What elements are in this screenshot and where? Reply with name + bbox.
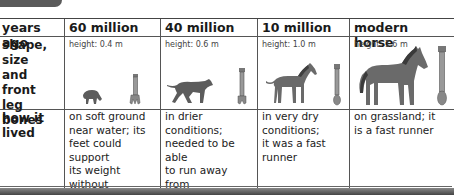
lived-cell-60-million: on soft ground near water; its feet coul… xyxy=(64,110,160,190)
page-bottom-band xyxy=(0,188,454,195)
how-it-lived-label: how it lived xyxy=(0,110,64,190)
shape-label-line: shape, size xyxy=(2,38,60,68)
shape-row-label: shape, size and front leg bones xyxy=(0,37,64,109)
lived-cell-10-million: in very dry conditions; it was a fast ru… xyxy=(257,110,349,190)
header-60-million: 60 million xyxy=(64,19,160,36)
text-line: needed to be able xyxy=(165,137,253,164)
three-toed-long-leg-bone-icon xyxy=(332,63,342,107)
height-label: height: 0.6 m xyxy=(165,40,253,50)
shape-cell-40-million: height: 0.6 m xyxy=(160,37,257,109)
text-line: conditions; xyxy=(262,124,345,138)
header-label: years ago xyxy=(0,19,64,36)
header-40-million: 40 million xyxy=(160,19,257,36)
text-line: on soft ground xyxy=(69,110,156,124)
three-toed-leg-bone-icon xyxy=(236,67,248,105)
shape-row: shape, size and front leg bones height: … xyxy=(0,37,454,110)
lived-cell-modern-horse: on grassland; it is a fast runner xyxy=(349,110,454,190)
horse-evolution-table: years ago 60 million 40 million 10 milli… xyxy=(0,18,454,190)
text-line: near water; its xyxy=(69,124,156,138)
small-horse-icon xyxy=(266,57,318,105)
text-line: on grassland; it xyxy=(354,110,450,124)
lived-label-line: how it xyxy=(2,111,60,126)
shape-cell-modern-horse: height: 1.6 m xyxy=(349,37,454,109)
shape-cell-60-million: height: 0.4 m xyxy=(64,37,160,109)
header-10-million: 10 million xyxy=(257,19,349,36)
height-label: height: 0.4 m xyxy=(69,40,156,50)
single-hoof-leg-bone-icon xyxy=(436,45,448,107)
table-bottom-border xyxy=(0,186,452,187)
text-line: in drier conditions; xyxy=(165,110,253,137)
text-line: is a fast runner xyxy=(354,124,450,138)
text-line: in very dry xyxy=(262,110,345,124)
modern-horse-icon xyxy=(358,41,430,107)
how-it-lived-row: how it lived on soft ground near water; … xyxy=(0,110,454,190)
four-toed-leg-bone-icon xyxy=(129,73,141,105)
header-row: years ago 60 million 40 million 10 milli… xyxy=(0,19,454,37)
height-label: height: 1.0 m xyxy=(262,40,345,50)
header-modern-horse: modern horse xyxy=(349,19,454,36)
shape-label-line: and front xyxy=(2,68,60,98)
text-line: it was a fast xyxy=(262,137,345,151)
section-tab xyxy=(0,0,62,7)
text-line: runner xyxy=(262,151,345,165)
text-line: feet could support xyxy=(69,137,156,164)
lived-cell-40-million: in drier conditions; needed to be able t… xyxy=(160,110,257,190)
small-grazing-animal-icon xyxy=(81,87,103,105)
shape-cell-10-million: height: 1.0 m xyxy=(257,37,349,109)
lived-label-line: lived xyxy=(2,126,60,141)
running-dog-like-animal-icon xyxy=(167,79,215,105)
